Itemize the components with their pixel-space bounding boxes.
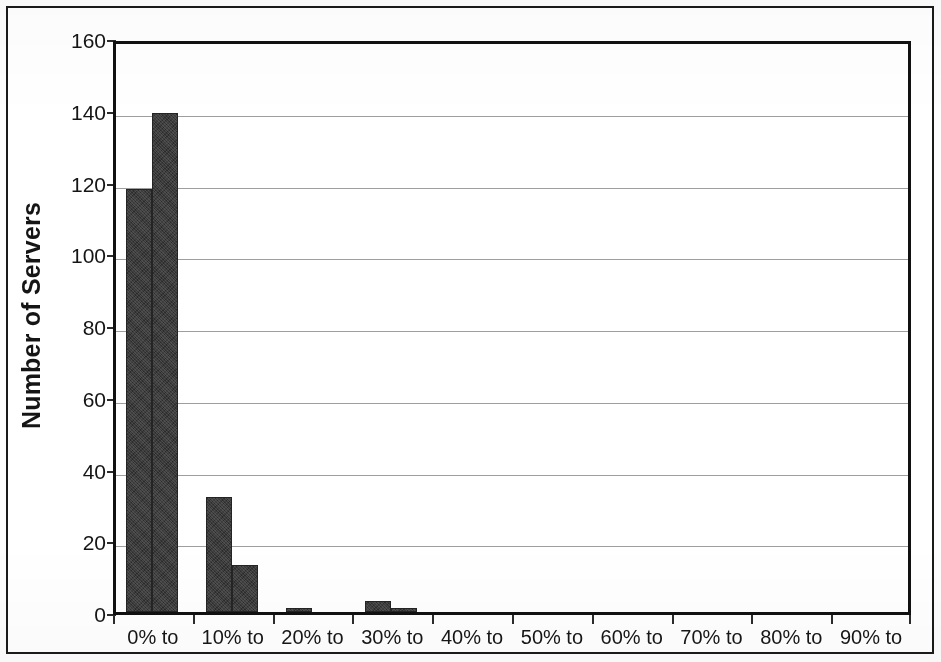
x-axis-tick-mark <box>909 615 911 624</box>
x-axis-tick-mark <box>273 615 275 624</box>
bar <box>365 601 391 612</box>
y-axis-tick-label: 140 <box>54 101 106 125</box>
bar-group <box>196 44 276 612</box>
bar <box>206 497 232 612</box>
bar-group <box>276 44 356 612</box>
y-axis-tick-label: 160 <box>54 29 106 53</box>
y-axis-title: Number of Servers <box>8 150 56 480</box>
bar-group <box>754 44 834 612</box>
x-axis-tick-marks <box>113 615 911 625</box>
x-axis-tick-label: 70% to <box>680 626 742 649</box>
bars-layer <box>116 44 908 612</box>
bar-group <box>355 44 435 612</box>
x-axis-tick-mark <box>352 615 354 624</box>
bar <box>391 608 417 612</box>
bar <box>286 608 312 612</box>
y-axis-tick-label: 20 <box>54 531 106 555</box>
bar-group <box>595 44 675 612</box>
y-axis-tick-labels: 020406080100120140160 <box>50 41 106 615</box>
x-axis-tick-label: 0% to <box>127 626 178 649</box>
x-axis-tick-label: 10% to <box>202 626 264 649</box>
x-axis-tick-mark <box>831 615 833 624</box>
y-axis-tick-label: 80 <box>54 316 106 340</box>
y-axis-tick-label: 60 <box>54 388 106 412</box>
plot-area <box>113 41 911 615</box>
x-axis-tick-label: 30% to <box>361 626 423 649</box>
bar-group <box>834 44 914 612</box>
x-axis-tick-mark <box>592 615 594 624</box>
y-axis-title-text: Number of Servers <box>18 201 47 428</box>
x-axis-tick-labels: 0% to10% to20% to30% to40% to50% to60% t… <box>113 626 911 656</box>
x-axis-tick-label: 90% to <box>840 626 902 649</box>
bar-group <box>116 44 196 612</box>
bar-group <box>435 44 515 612</box>
y-axis-tick-label: 120 <box>54 173 106 197</box>
x-axis-tick-mark <box>193 615 195 624</box>
bar-group <box>515 44 595 612</box>
bar <box>232 565 258 612</box>
x-axis-tick-label: 80% to <box>760 626 822 649</box>
bar-group <box>675 44 755 612</box>
y-axis-tick-label: 40 <box>54 460 106 484</box>
y-axis-tick-label: 0 <box>54 603 106 627</box>
x-axis-tick-label: 50% to <box>521 626 583 649</box>
x-axis-tick-label: 20% to <box>281 626 343 649</box>
x-axis-tick-mark <box>113 615 115 624</box>
y-axis-tick-label: 100 <box>54 244 106 268</box>
x-axis-tick-mark <box>751 615 753 624</box>
x-axis-tick-label: 40% to <box>441 626 503 649</box>
x-axis-tick-mark <box>432 615 434 624</box>
figure-container: Number of Servers 020406080100120140160 … <box>0 0 941 662</box>
x-axis-tick-mark <box>672 615 674 624</box>
x-axis-tick-mark <box>512 615 514 624</box>
x-axis-tick-label: 60% to <box>601 626 663 649</box>
bar <box>126 189 152 612</box>
bar <box>152 113 178 612</box>
